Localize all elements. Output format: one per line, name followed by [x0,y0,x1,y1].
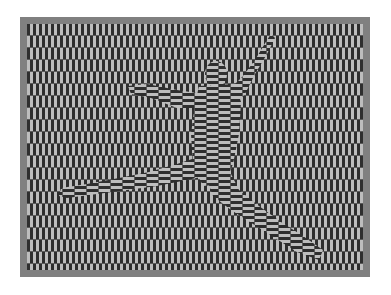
optical-illusion-artwork [27,24,363,270]
image-canvas [0,0,391,295]
picture-frame [20,17,370,277]
dancer-head [205,61,227,87]
